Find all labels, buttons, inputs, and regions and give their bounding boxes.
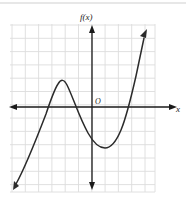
curve-upper-right-arrow-icon bbox=[140, 29, 147, 38]
graph-figure: f(x) x O bbox=[0, 0, 186, 202]
y-axis-up-arrow-icon bbox=[89, 25, 95, 33]
origin-label: O bbox=[95, 97, 101, 106]
grid-lines bbox=[10, 24, 155, 192]
y-axis-label: f(x) bbox=[80, 12, 93, 22]
coordinate-plane-svg: f(x) x O bbox=[0, 0, 186, 202]
curve-lower-left-arrow-icon bbox=[13, 181, 19, 190]
cubic-curve-path bbox=[16, 38, 144, 184]
function-curve bbox=[13, 29, 147, 190]
y-axis-down-arrow-icon bbox=[89, 182, 95, 190]
x-axis-label: x bbox=[175, 104, 180, 114]
